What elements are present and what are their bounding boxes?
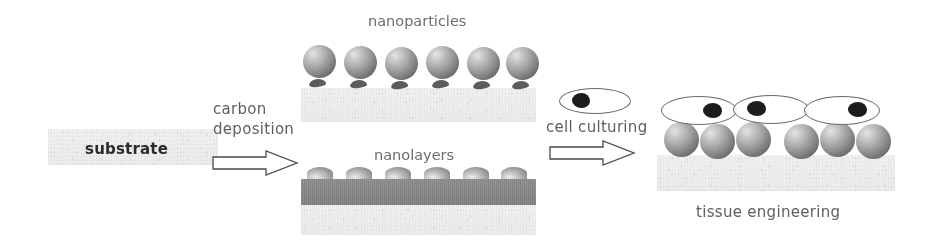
tissue-sphere [820, 122, 855, 157]
carbon-deposition-label: carbon deposition [213, 100, 294, 140]
culture-cell [559, 88, 631, 114]
tissue-cell [661, 96, 737, 125]
cell-culturing-arrow-icon [549, 140, 635, 166]
nanoparticle-sphere [303, 45, 336, 78]
tissue-cell-nucleus [848, 102, 867, 117]
tissue-cell-nucleus [703, 103, 722, 118]
nanoparticle-sphere [426, 46, 459, 79]
substrate-label: substrate [85, 140, 168, 158]
tissue-engineering-label: tissue engineering [696, 203, 840, 221]
tissue-sphere [700, 124, 735, 159]
carbon-deposition-label-line1: carbon [213, 100, 294, 120]
nanolayer-bar [301, 179, 536, 205]
tissue-cell [804, 96, 880, 125]
nanolayers-label: nanolayers [374, 147, 454, 163]
substrate-slab-nanoparticles [301, 88, 536, 122]
diagram-canvas: substrate carbon deposition nanoparticle… [0, 0, 937, 249]
tissue-sphere [736, 122, 771, 157]
carbon-deposition-label-line2: deposition [213, 120, 294, 140]
nanoparticle-foot [309, 78, 327, 88]
nanoparticle-sphere [344, 46, 377, 79]
tissue-sphere [784, 124, 819, 159]
nanoparticle-sphere [385, 47, 418, 80]
tissue-cell [733, 95, 809, 124]
tissue-cell-nucleus [747, 101, 766, 116]
nanoparticle-sphere [467, 47, 500, 80]
substrate-slab-nanolayers [301, 205, 536, 235]
culture-cell-nucleus [572, 93, 590, 108]
tissue-sphere [856, 124, 891, 159]
nanoparticle-sphere [506, 47, 539, 80]
carbon-deposition-arrow-icon [212, 150, 298, 176]
cell-culturing-label: cell culturing [546, 118, 647, 136]
nanoparticles-label: nanoparticles [368, 13, 466, 29]
tissue-sphere [664, 122, 699, 157]
substrate-slab-tissue [657, 155, 895, 191]
